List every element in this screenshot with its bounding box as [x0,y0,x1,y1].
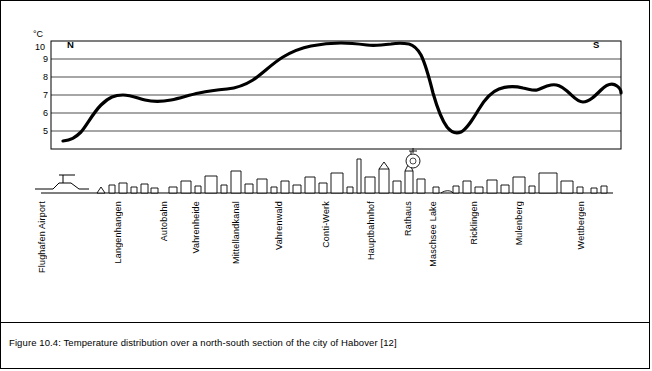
x-label-vahrenwald: Vahrenwald [274,201,284,250]
x-label-autobahn: Autobahn [159,201,169,241]
x-label-maschsee-lake: Maschsee Lake [428,201,438,267]
x-label-ricklingen: Ricklingen [469,201,479,245]
city-skyline-silhouette [35,148,613,193]
y-tick-6: 6 [34,108,48,118]
x-label-langenhangen: Langenhangen [113,201,123,263]
y-tick-8: 8 [34,72,48,82]
x-label-wettbergen: Wettbergen [576,201,586,249]
y-tick-10: 10 [31,42,45,52]
y-tick-7: 7 [34,90,48,100]
plot-grid [51,41,621,149]
x-label-flughafen-airport: Flughafen Airport [37,201,47,273]
x-label-mulenberg: Mulenberg [514,201,524,245]
x-label-vahrenheide: Vahrenheide [191,201,201,254]
temperature-profile-svg [1,1,650,321]
figure-caption: Figure 10.4: Temperature distribution ov… [1,322,650,368]
x-label-conti-werk: Conti-Werk [321,201,331,248]
y-tick-5: 5 [34,126,48,136]
y-tick-9: 9 [34,54,48,64]
figure-frame: °C N S [0,0,650,369]
x-label-mittellandkanal: Mittellandkanal [231,201,241,264]
x-label-rathaus: Rathaus [403,201,413,236]
temperature-curve [63,43,621,141]
x-label-hauptbahnhof: Hauptbahnhof [366,201,376,260]
figure-caption-text: Figure 10.4: Temperature distribution ov… [9,337,397,348]
chart-area: °C N S [1,1,650,321]
